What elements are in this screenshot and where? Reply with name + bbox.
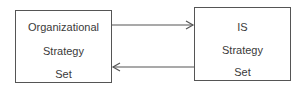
box-label-line: Set (195, 66, 290, 78)
box-label-line: IS (195, 21, 290, 33)
organizational-strategy-set-box: Organizational Strategy Set (15, 10, 112, 83)
box-label-line: Organizational (16, 21, 111, 33)
arrow-left-to-right (111, 21, 193, 29)
box-label-line: Set (16, 68, 111, 80)
is-strategy-set-box: IS Strategy Set (194, 7, 291, 81)
box-label-line: Strategy (16, 45, 111, 57)
arrow-right-to-left (113, 63, 194, 71)
box-label-line: Strategy (195, 44, 290, 56)
